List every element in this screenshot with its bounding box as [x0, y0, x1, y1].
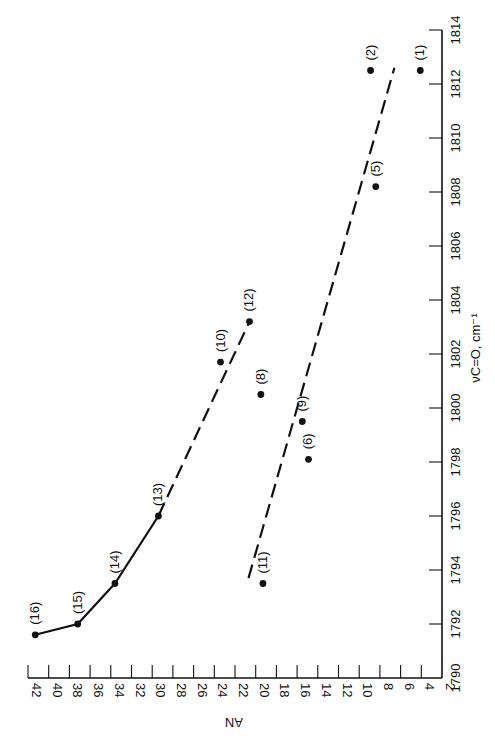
- an-tick-label: 32: [133, 683, 148, 697]
- point-label: (1): [412, 45, 427, 61]
- an-tick-label: 20: [257, 683, 272, 697]
- data-point: [260, 580, 267, 587]
- an-tick-label: 22: [236, 683, 251, 697]
- lower-dashed-fit: [249, 68, 395, 578]
- data-point: [112, 580, 119, 587]
- an-tick-label: 14: [319, 683, 334, 697]
- point-label: (14): [107, 550, 122, 573]
- an-tick-label: 24: [215, 683, 230, 697]
- an-tick-label: 6: [402, 683, 417, 690]
- point-label: (2): [363, 45, 378, 61]
- solid-curve: [35, 516, 158, 635]
- y-axis-title: AN: [225, 715, 243, 730]
- point-label: (16): [27, 602, 42, 625]
- an-tick-label: 30: [153, 683, 168, 697]
- an-tick-label: 4: [422, 683, 437, 690]
- data-point: [74, 621, 81, 628]
- data-point: [367, 67, 374, 74]
- nu-tick-label: 1796: [448, 502, 463, 531]
- axes: 2468101214161820222426283032343638404217…: [28, 16, 463, 698]
- point-label: (11): [255, 551, 270, 573]
- nu-tick-label: 1812: [448, 70, 463, 99]
- an-tick-label: 38: [70, 683, 85, 697]
- nu-tick-label: 1810: [448, 124, 463, 153]
- data-point: [155, 513, 162, 520]
- nu-tick-label: 1800: [448, 394, 463, 423]
- upper-dashed-extension: [158, 322, 249, 516]
- nu-tick-label: 1804: [448, 286, 463, 315]
- nu-tick-label: 1790: [448, 664, 463, 693]
- data-point: [257, 391, 264, 398]
- point-label: (13): [150, 483, 165, 506]
- an-tick-label: 34: [112, 683, 127, 697]
- point-label: (15): [70, 591, 85, 614]
- data-point: [246, 318, 253, 325]
- nu-tick-label: 1794: [448, 556, 463, 585]
- point-label: (10): [213, 329, 228, 352]
- data-point: [217, 359, 224, 366]
- nu-tick-label: 1798: [448, 448, 463, 477]
- an-tick-label: 8: [381, 683, 396, 690]
- data-point: [32, 631, 39, 638]
- an-tick-label: 40: [50, 683, 65, 697]
- data-points: (1)(2)(5)(6)(8)(9)(10)(11)(12)(13)(14)(1…: [27, 45, 427, 639]
- x-axis-title: νC=O, cm⁻¹: [468, 313, 483, 383]
- nu-tick-label: 1808: [448, 178, 463, 207]
- point-label: (5): [368, 161, 383, 177]
- chart: 2468101214161820222426283032343638404217…: [0, 0, 495, 736]
- an-tick-label: 26: [195, 683, 210, 697]
- an-tick-label: 36: [91, 683, 106, 697]
- point-label: (9): [294, 396, 309, 412]
- point-label: (12): [241, 288, 256, 311]
- an-tick-label: 12: [340, 683, 355, 697]
- an-tick-label: 18: [277, 683, 292, 697]
- an-tick-label: 28: [174, 683, 189, 697]
- nu-tick-label: 1802: [448, 340, 463, 369]
- an-tick-label: 10: [360, 683, 375, 697]
- data-point: [305, 456, 312, 463]
- data-point: [372, 183, 379, 190]
- nu-tick-label: 1792: [448, 610, 463, 639]
- nu-tick-label: 1806: [448, 232, 463, 261]
- an-tick-label: 16: [298, 683, 313, 697]
- nu-tick-label: 1814: [448, 16, 463, 45]
- point-label: (6): [300, 433, 315, 449]
- an-tick-label: 42: [29, 683, 44, 697]
- point-label: (8): [253, 369, 268, 385]
- data-point: [417, 67, 424, 74]
- data-point: [299, 418, 306, 425]
